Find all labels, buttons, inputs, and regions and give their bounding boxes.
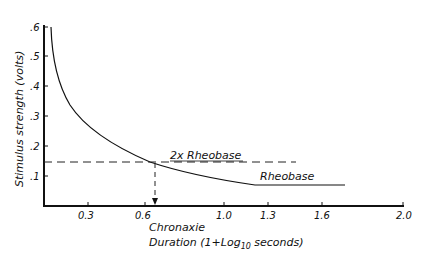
x-tick-labels: 0.3 0.6 1.0 1.3 1.6 2.0 — [78, 210, 412, 221]
annotation-2x-rheobase: 2x Rheobase — [170, 149, 242, 162]
svg-text:1.0: 1.0 — [216, 210, 232, 221]
strength-duration-chart: .1 .2 .3 .4 .5 .6 0.3 0.6 1.0 1.3 1.6 2.… — [0, 0, 433, 257]
svg-text:1.3: 1.3 — [260, 210, 276, 221]
svg-text:.3: .3 — [30, 111, 40, 122]
y-axis-label: Stimulus strength (volts) — [13, 51, 26, 187]
annotation-rheobase: Rheobase — [260, 170, 315, 183]
arrow-down-icon — [152, 198, 158, 205]
annotation-chronaxie: Chronaxie — [149, 221, 205, 234]
svg-text:.6: .6 — [30, 22, 40, 33]
svg-text:1.6: 1.6 — [314, 210, 330, 221]
svg-text:.5: .5 — [30, 51, 40, 62]
svg-text:0.3: 0.3 — [78, 210, 94, 221]
svg-text:.4: .4 — [30, 81, 40, 92]
svg-text:.2: .2 — [30, 141, 40, 152]
x-axis-label: Duration (1+Log10 seconds) — [149, 236, 304, 251]
svg-text:0.6: 0.6 — [135, 210, 151, 221]
svg-text:2.0: 2.0 — [396, 210, 412, 221]
y-tick-labels: .1 .2 .3 .4 .5 .6 — [30, 22, 40, 182]
svg-text:.1: .1 — [30, 171, 40, 182]
